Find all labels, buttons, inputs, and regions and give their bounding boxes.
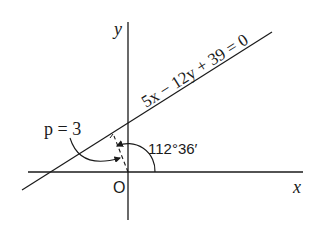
angle-label: 112°36′ xyxy=(148,140,198,157)
equation-label: 5x − 12y + 39 = 0 xyxy=(138,30,251,111)
x-axis-label: x xyxy=(292,177,301,197)
perpendicular-segment xyxy=(114,136,128,172)
diagram-canvas: y x O 5x − 12y + 39 = 0 p = 3 112°36′ xyxy=(0,0,319,241)
y-axis-label: y xyxy=(112,19,122,39)
origin-label: O xyxy=(113,179,125,196)
p-pointer-curve xyxy=(70,138,120,161)
p-label: p = 3 xyxy=(44,119,81,139)
